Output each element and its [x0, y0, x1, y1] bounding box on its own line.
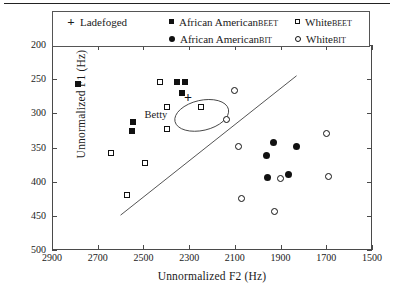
data-point-osq — [198, 104, 204, 110]
legend-item-aa-beet: African American beet — [169, 13, 278, 30]
legend-label-white-beet: White — [305, 16, 332, 28]
data-point-oci — [277, 175, 284, 182]
data-point-fci — [293, 143, 300, 150]
highlight-ellipse — [172, 95, 232, 137]
legend-label-aa-beet-sc: beet — [258, 16, 278, 28]
legend-item-ladefoged: + Ladefoged — [67, 13, 127, 30]
data-point-osq — [124, 192, 130, 198]
legend-label-white-bit: White — [306, 33, 333, 45]
figure: Unnormalized F1 (Hz) Unnormalized F2 (Hz… — [0, 0, 394, 291]
data-point-fsq — [75, 81, 81, 87]
open-circle-marker-icon — [295, 36, 301, 42]
data-point-fsq — [129, 128, 135, 134]
open-square-marker-icon — [295, 19, 300, 24]
data-point-osq — [157, 79, 163, 85]
legend: + Ladefoged African American beet Africa… — [52, 11, 370, 47]
legend-label-white-bit-sc: bit — [333, 33, 346, 45]
data-point-oci — [235, 143, 242, 150]
legend-item-white-bit: White bit — [295, 30, 346, 47]
filled-circle-marker-icon — [169, 36, 175, 42]
data-point-fsq — [174, 79, 180, 85]
divider-line — [121, 76, 297, 215]
legend-label-ladefoged: Ladefoged — [80, 16, 127, 28]
data-point-osq — [142, 160, 148, 166]
filled-square-marker-icon — [169, 19, 174, 24]
data-point-oci — [223, 116, 230, 123]
data-point-oci — [271, 208, 278, 215]
data-point-fsq — [130, 119, 136, 125]
data-point-oci — [325, 173, 332, 180]
legend-label-aa-bit: African American — [180, 33, 259, 45]
legend-label-aa-bit-sc: bit — [259, 33, 272, 45]
legend-item-white-beet: White beet — [295, 13, 352, 30]
legend-label-white-beet-sc: beet — [332, 16, 352, 28]
plus-marker-icon: + — [67, 18, 75, 26]
legend-label-aa-beet: African American — [179, 16, 258, 28]
data-point-osq — [108, 150, 114, 156]
data-point-fsq — [179, 90, 185, 96]
legend-item-aa-bit: African American bit — [169, 30, 272, 47]
data-point-osq — [164, 126, 170, 132]
annotation-betty: Betty — [145, 109, 168, 120]
data-point-fsq — [182, 79, 188, 85]
